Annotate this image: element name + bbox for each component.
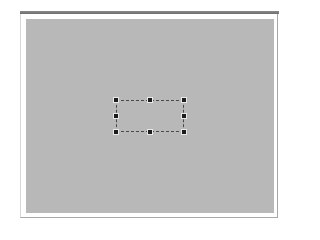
resize-handle-middle-left[interactable] [114,114,118,118]
resize-handle-top-left[interactable] [114,98,118,102]
resize-handle-bottom-left[interactable] [114,130,118,134]
resize-handle-bottom-right[interactable] [182,130,186,134]
resize-handle-bottom-center[interactable] [148,130,152,134]
resize-handle-middle-right[interactable] [182,114,186,118]
selection-rectangle[interactable] [116,100,184,132]
resize-handle-top-right[interactable] [182,98,186,102]
resize-handle-top-center[interactable] [148,98,152,102]
